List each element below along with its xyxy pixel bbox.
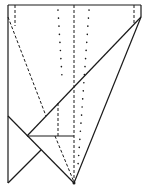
fold-diagram: [0, 0, 144, 189]
bottom-left-diagonal-line: [8, 150, 41, 183]
left-dotted-line: [58, 10, 62, 77]
dashed-lines-group: [8, 5, 134, 183]
points-group: [73, 182, 76, 185]
right-dotted-line: [78, 10, 89, 165]
bottom-vertex-point: [73, 182, 76, 185]
fold-diagram-svg: [0, 0, 144, 189]
inner-diagonal-dashed-line: [55, 136, 74, 182]
left-diagonal-dashed-line: [8, 17, 46, 116]
long-diagonal-line: [27, 17, 141, 136]
right-diagonal-line: [74, 17, 141, 183]
